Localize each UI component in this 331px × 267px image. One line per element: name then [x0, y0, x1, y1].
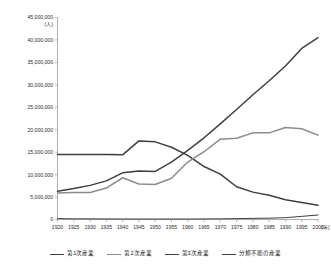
y-axis-tick-label: 45,000,000 [28, 14, 54, 20]
x-axis-tick-label: 1970 [215, 224, 226, 230]
y-axis-tick-label: 10,000,000 [28, 172, 54, 178]
chart-svg: 05,000,00010,000,00015,000,00020,000,000… [0, 0, 331, 240]
x-axis-tick-label: 1955 [166, 224, 177, 230]
legend-item-label: 分類不能の産業 [239, 251, 281, 257]
x-axis-tick-label: 1980 [247, 224, 258, 230]
x-axis-tick-label: 1990 [280, 224, 291, 230]
x-axis-tick-label: 1950 [150, 224, 161, 230]
x-axis-tick-label: 1930 [84, 224, 95, 230]
x-axis-tick-label: 1960 [182, 224, 193, 230]
legend-item-3[interactable]: 第3次産業 [165, 251, 209, 257]
x-axis-tick-label: 1965 [198, 224, 209, 230]
legend-item-label: 第2次産業 [124, 251, 151, 257]
y-axis-tick-label: 30,000,000 [28, 82, 54, 88]
x-axis-tick-label: 1985 [263, 224, 274, 230]
legend-item-label: 第3次産業 [182, 251, 209, 257]
employment-by-industry-chart: 05,000,00010,000,00015,000,00020,000,000… [0, 0, 331, 267]
chart-plot-area: 05,000,00010,000,00015,000,00020,000,000… [0, 0, 331, 240]
legend-line-swatch-icon [107, 254, 121, 255]
x-axis-tick-label: 1940 [117, 224, 128, 230]
legend-item-label: 第1次産業 [67, 251, 94, 257]
series-line-3 [58, 38, 319, 192]
y-axis-tick-label: 20,000,000 [28, 127, 54, 133]
x-axis-tick-label: 1925 [68, 224, 79, 230]
y-axis-unit-label: (人) [45, 21, 54, 27]
x-axis-tick-label: 1920 [52, 224, 63, 230]
x-axis-tick-label: 1995 [296, 224, 307, 230]
y-axis-tick-label: 0 [50, 216, 53, 222]
x-axis-tick-label: 1935 [101, 224, 112, 230]
y-axis-tick-label: 5,000,000 [30, 194, 53, 200]
legend-line-swatch-icon [50, 254, 64, 255]
legend-item-4[interactable]: 分類不能の産業 [222, 251, 281, 257]
x-axis-tick-label: 1975 [231, 224, 242, 230]
y-axis-tick-label: 15,000,000 [28, 149, 54, 155]
y-axis-tick-label: 25,000,000 [28, 104, 54, 110]
legend-item-1[interactable]: 第1次産業 [50, 251, 94, 257]
legend-item-2[interactable]: 第2次産業 [107, 251, 151, 257]
series-line-4 [58, 215, 319, 219]
y-axis-tick-label: 35,000,000 [28, 59, 54, 65]
x-axis-unit-label: (年) [321, 224, 330, 231]
x-axis-tick-label: 1945 [133, 224, 144, 230]
legend-line-swatch-icon [165, 254, 179, 255]
legend-line-swatch-icon [222, 254, 236, 255]
chart-legend: 第1次産業第2次産業第3次産業分類不能の産業 [0, 243, 331, 265]
y-axis-tick-label: 40,000,000 [28, 37, 54, 43]
